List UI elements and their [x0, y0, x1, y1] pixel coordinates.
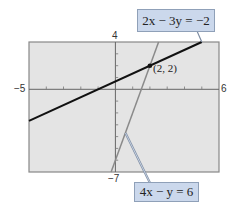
intersection-label: (2, 2): [153, 62, 177, 74]
callout-leader-eq1: [195, 31, 202, 42]
x-min-label: −5: [14, 83, 25, 94]
intersection-point: [148, 63, 153, 68]
equation-label-1: 2x − 3y = −2: [137, 9, 215, 32]
equation-label-2: 4x − y = 6: [134, 182, 199, 202]
x-max-label: 6: [221, 83, 227, 94]
y-min-label: −7: [108, 173, 119, 184]
y-max-label: 4: [112, 30, 118, 41]
